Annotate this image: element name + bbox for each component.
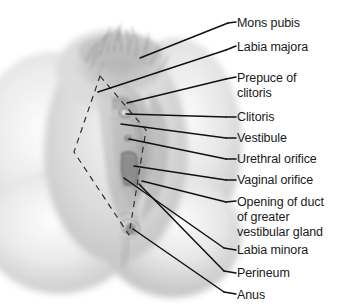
anatomy-figure: Mons pubis Labia majora Prepuce of clito… bbox=[0, 0, 345, 308]
tick-opening-of-duct bbox=[226, 201, 236, 202]
tick-mons-pubis bbox=[228, 22, 236, 23]
label-prepuce-of-clitoris: Prepuce of clitoris bbox=[237, 71, 296, 101]
label-urethral-orifice: Urethral orifice bbox=[237, 152, 317, 167]
label-labia-majora: Labia majora bbox=[237, 40, 308, 55]
label-anus: Anus bbox=[237, 288, 265, 303]
label-clitoris: Clitoris bbox=[237, 110, 274, 125]
label-opening-of-duct-of-greater-vestibular-gland: Opening of duct of greater vestibular gl… bbox=[237, 195, 324, 240]
label-perineum: Perineum bbox=[237, 266, 290, 281]
label-vestibule: Vestibule bbox=[237, 131, 287, 146]
label-mons-pubis: Mons pubis bbox=[237, 16, 300, 31]
label-vaginal-orifice: Vaginal orifice bbox=[237, 173, 313, 188]
vaginal-orifice bbox=[121, 152, 137, 185]
label-labia-minora: Labia minora bbox=[237, 243, 308, 258]
